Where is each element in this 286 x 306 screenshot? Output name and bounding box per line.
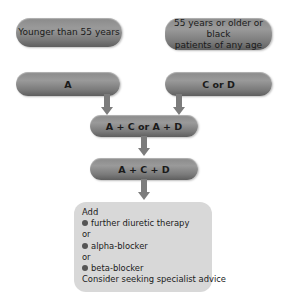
step4-separator: or	[82, 229, 204, 240]
node-label: A + C or A + D	[106, 121, 183, 132]
node-label-line2: patients of any age	[175, 40, 262, 51]
node-step1-c-or-d: C or D	[165, 72, 272, 96]
arrow-down-icon	[138, 136, 150, 158]
step4-option: beta-blocker	[82, 263, 204, 274]
arrow-down-icon	[101, 94, 113, 116]
node-label: A + C + D	[118, 164, 169, 175]
bullet-icon	[82, 243, 88, 249]
node-label-line1: 55 years or older or black	[165, 18, 272, 40]
node-label: C or D	[202, 79, 235, 90]
node-label: A	[64, 79, 71, 90]
node-step1-a: A	[16, 72, 120, 96]
step4-intro: Add	[82, 207, 204, 218]
node-younger-than-55: Younger than 55 years	[16, 18, 122, 47]
node-step3: A + C + D	[90, 158, 198, 180]
step4-option: further diuretic therapy	[82, 218, 204, 229]
node-label: Younger than 55 years	[18, 27, 119, 38]
arrow-down-icon	[173, 94, 185, 116]
bullet-icon	[82, 265, 88, 271]
arrow-down-icon	[138, 179, 150, 202]
step4-option: alpha-blocker	[82, 241, 204, 252]
step4-separator: or	[82, 252, 204, 263]
step4-footer: Consider seeking specialist advice	[82, 274, 204, 285]
node-step2: A + C or A + D	[90, 115, 198, 137]
bullet-icon	[82, 220, 88, 226]
node-55-or-older-or-black: 55 years or older or black patients of a…	[165, 18, 272, 50]
node-step4: Add further diuretic therapy or alpha-bl…	[74, 202, 212, 292]
